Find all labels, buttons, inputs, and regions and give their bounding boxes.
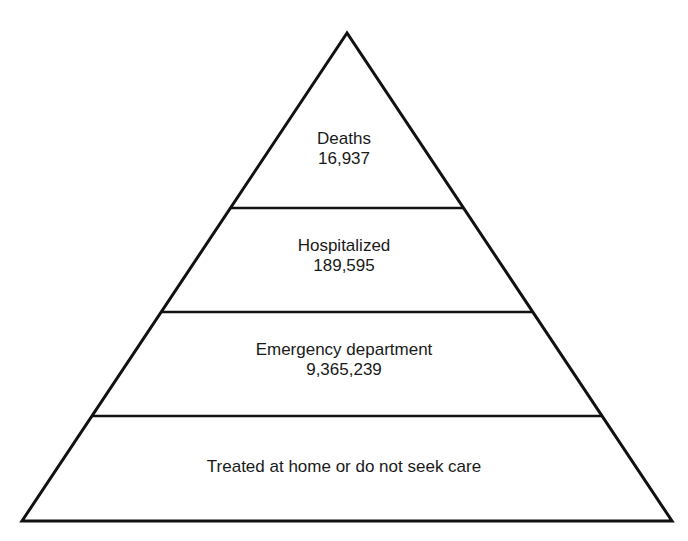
tier-hospitalized-value: 189,595 xyxy=(0,256,688,276)
tier-deaths-value: 16,937 xyxy=(0,149,688,169)
tier-deaths: Deaths 16,937 xyxy=(0,129,688,169)
pyramid-outline xyxy=(22,33,672,521)
tier-emergency-department-name: Emergency department xyxy=(0,340,688,360)
tier-hospitalized-name: Hospitalized xyxy=(0,236,688,256)
tier-emergency-department-value: 9,365,239 xyxy=(0,360,688,380)
tier-treated-at-home: Treated at home or do not seek care xyxy=(0,457,688,477)
tier-treated-at-home-name: Treated at home or do not seek care xyxy=(0,457,688,477)
tier-deaths-name: Deaths xyxy=(0,129,688,149)
tier-hospitalized: Hospitalized 189,595 xyxy=(0,236,688,276)
tier-emergency-department: Emergency department 9,365,239 xyxy=(0,340,688,380)
